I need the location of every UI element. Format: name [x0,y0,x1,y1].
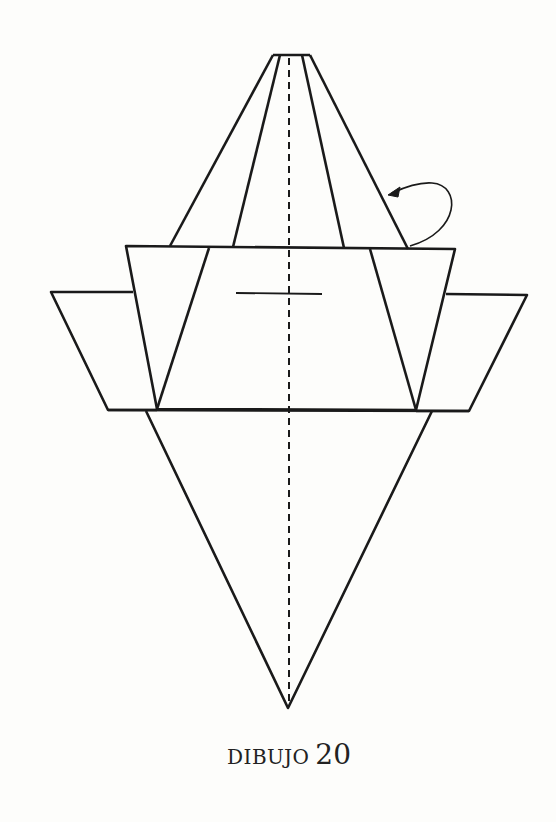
center-rectangle-panel [126,246,455,410]
rotate-arrow [388,183,452,246]
caption-number: 20 [315,738,351,771]
origami-diagram [0,0,556,822]
left-side-flap [51,292,157,410]
right-side-flap [416,294,527,411]
figure-caption: DIBUJO20 [0,738,556,771]
center-mark-line [236,293,322,294]
caption-word: DIBUJO [227,745,309,769]
